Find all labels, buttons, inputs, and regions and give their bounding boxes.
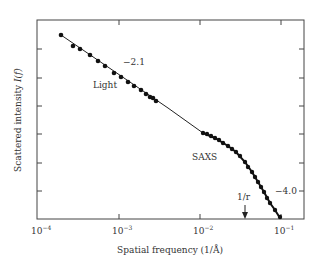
svg-text:10−4: 10−4 <box>31 224 51 236</box>
crossover-label: 1/r <box>237 192 251 202</box>
saxs-data-points <box>201 131 282 219</box>
saxs-label: SAXS <box>192 152 217 162</box>
y-ticks <box>37 49 304 191</box>
saxs-curve <box>203 133 280 218</box>
x-axis-label: Spatial frequency (1/Å) <box>117 244 223 255</box>
svg-text:10−3: 10−3 <box>112 224 132 236</box>
y-axis-label: Scattered intensity I(f) <box>13 68 23 172</box>
crossover-arrow <box>242 205 248 219</box>
svg-text:10−1: 10−1 <box>274 224 294 236</box>
light-label: Light <box>93 80 117 90</box>
scattering-chart: 10−4 10−3 10−2 10−1 Spatial frequency (1… <box>0 0 320 272</box>
x-ticks <box>119 20 281 219</box>
light-fit-line <box>61 35 203 133</box>
plot-frame <box>37 20 304 219</box>
svg-text:10−2: 10−2 <box>193 224 213 236</box>
slope-light-label: −2.1 <box>123 57 145 67</box>
slope-saxs-label: −4.0 <box>275 186 297 196</box>
x-tick-labels: 10−4 10−3 10−2 10−1 <box>31 224 294 236</box>
